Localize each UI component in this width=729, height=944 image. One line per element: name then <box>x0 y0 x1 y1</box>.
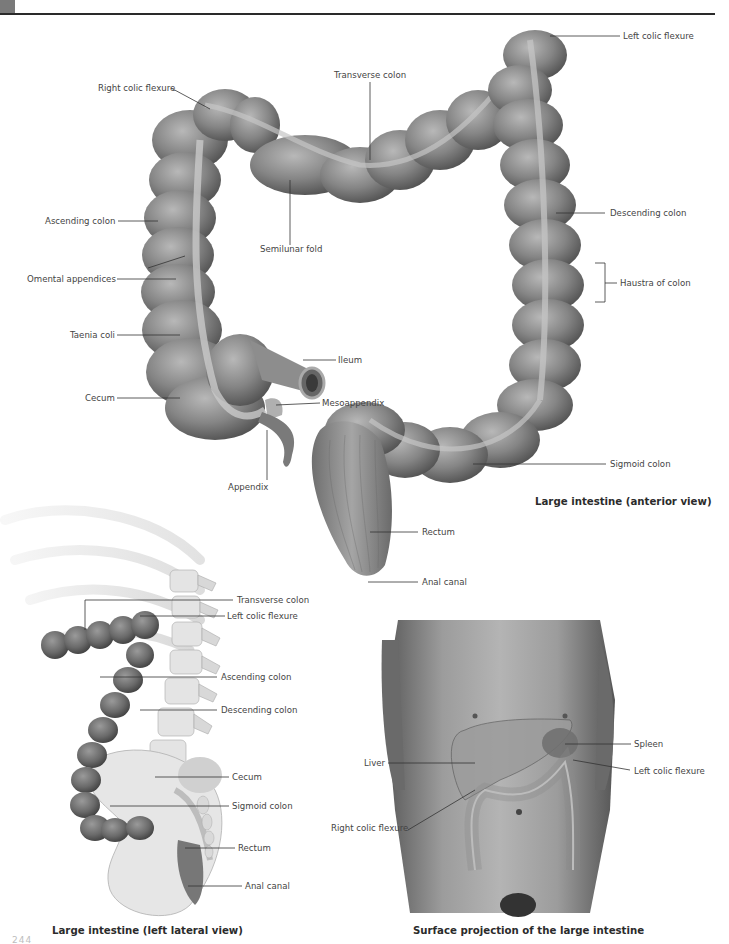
label-lateral-transverse-colon: Transverse colon <box>237 595 309 605</box>
label-mesoappendix: Mesoappendix <box>322 398 384 408</box>
caption-lateral-view: Large intestine (left lateral view) <box>52 925 243 936</box>
lateral-view-illustration <box>5 510 222 915</box>
label-left-colic-flexure: Left colic flexure <box>623 31 694 41</box>
label-surface-left-colic-flexure: Left colic flexure <box>634 766 705 776</box>
surface-projection-illustration <box>382 620 615 917</box>
anterior-view-illustration <box>141 30 584 576</box>
anatomy-illustrations <box>0 0 729 944</box>
label-lateral-sigmoid-colon: Sigmoid colon <box>232 801 293 811</box>
label-rectum: Rectum <box>422 527 455 537</box>
label-taenia-coli: Taenia coli <box>70 330 115 340</box>
label-lateral-rectum: Rectum <box>238 843 271 853</box>
label-right-colic-flexure: Right colic flexure <box>98 83 175 93</box>
label-lateral-anal-canal: Anal canal <box>245 881 290 891</box>
label-surface-spleen: Spleen <box>634 739 663 749</box>
label-sigmoid-colon: Sigmoid colon <box>610 459 671 469</box>
label-cecum: Cecum <box>85 393 115 403</box>
label-semilunar-fold: Semilunar fold <box>260 244 322 254</box>
label-ascending-colon: Ascending colon <box>45 216 115 226</box>
label-lateral-left-colic-flexure: Left colic flexure <box>227 611 298 621</box>
label-omental-appendices: Omental appendices <box>27 274 116 284</box>
label-ileum: Ileum <box>338 355 362 365</box>
caption-anterior-view: Large intestine (anterior view) <box>535 496 712 507</box>
caption-surface-projection: Surface projection of the large intestin… <box>413 925 644 936</box>
page-number: 244 <box>12 935 32 944</box>
label-descending-colon: Descending colon <box>610 208 686 218</box>
label-lateral-descending-colon: Descending colon <box>221 705 297 715</box>
label-anal-canal: Anal canal <box>422 577 467 587</box>
label-transverse-colon: Transverse colon <box>334 70 406 80</box>
label-haustra-of-colon: Haustra of colon <box>620 278 691 288</box>
label-surface-liver: Liver <box>364 758 385 768</box>
label-lateral-cecum: Cecum <box>232 772 262 782</box>
label-lateral-ascending-colon: Ascending colon <box>221 672 291 682</box>
label-surface-right-colic-flexure: Right colic flexure <box>331 823 408 833</box>
label-appendix: Appendix <box>228 482 268 492</box>
